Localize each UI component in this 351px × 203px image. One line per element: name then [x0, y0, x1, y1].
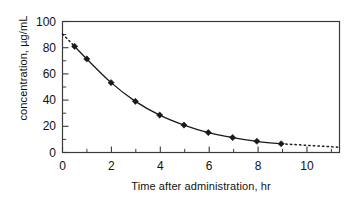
y-tick-label: 60: [43, 68, 56, 80]
x-tick-label: 4: [148, 160, 172, 172]
x-tick-label: 8: [246, 160, 270, 172]
x-axis-title: Time after administration, hr: [62, 180, 340, 192]
y-tick-label: 100: [36, 16, 56, 28]
x-tick-label: 6: [197, 160, 221, 172]
chart-figure: 100 80 60 40 20 0 0 2 4 6 8 10 concentra…: [0, 0, 351, 203]
y-tick-label: 80: [43, 42, 56, 54]
x-tick-labels: 0 2 4 6 8 10: [0, 160, 351, 176]
y-tick-label: 0: [49, 147, 56, 159]
axes-frame: [63, 22, 340, 153]
y-axis-title: concentration, µg/mL: [17, 0, 29, 143]
y-tick-label: 20: [43, 120, 56, 132]
x-tick-label: 10: [295, 160, 319, 172]
y-tick-label: 40: [43, 94, 56, 106]
x-tick-label: 0: [51, 160, 75, 172]
x-tick-label: 2: [99, 160, 123, 172]
